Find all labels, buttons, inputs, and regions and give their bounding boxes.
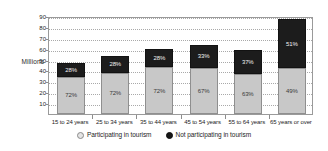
bar-segment-participating[interactable]: 67%: [190, 68, 218, 114]
bar-segment-label: 72%: [154, 88, 166, 94]
plot-area: 72%28%72%28%72%28%67%33%63%37%49%51%: [48, 17, 313, 115]
bar-segment-label: 51%: [286, 41, 298, 47]
bar-group[interactable]: 72%28%: [57, 18, 85, 114]
bar-segment-participating[interactable]: 72%: [101, 73, 129, 114]
x-axis-category-label: 65 years or over: [265, 119, 317, 126]
bar-segment-participating[interactable]: 72%: [57, 77, 85, 114]
bar-segment-label: 33%: [198, 53, 210, 59]
gridline: [49, 72, 312, 73]
gridline: [49, 40, 312, 41]
bar-segment-not-participating[interactable]: 33%: [190, 45, 218, 68]
bar-segment-participating[interactable]: 63%: [234, 74, 262, 114]
legend-item[interactable]: Not participating in tourism: [166, 131, 252, 139]
bar-segment-label: 72%: [109, 90, 121, 96]
y-axis-tick-label: 20: [30, 90, 46, 96]
bar-segment-label: 72%: [65, 92, 77, 98]
y-axis-tick-label: 30: [30, 79, 46, 85]
gridline: [49, 18, 312, 19]
bar-segment-not-participating[interactable]: 28%: [101, 56, 129, 72]
legend-label: Not participating in tourism: [176, 131, 252, 139]
y-axis-tick-label: 90: [30, 14, 46, 20]
bar-segment-not-participating[interactable]: 37%: [234, 50, 262, 74]
bar-segment-not-participating[interactable]: 28%: [145, 49, 173, 68]
bar-group[interactable]: 49%51%: [278, 18, 306, 114]
bar-segment-participating[interactable]: 72%: [145, 67, 173, 114]
gridline: [49, 29, 312, 30]
bar-segment-label: 37%: [242, 59, 254, 65]
bar-segment-participating[interactable]: 49%: [278, 68, 306, 114]
bar-segment-not-participating[interactable]: 51%: [278, 19, 306, 67]
bar-group[interactable]: 72%28%: [145, 18, 173, 114]
legend-item[interactable]: Participating in tourism: [77, 131, 152, 139]
x-axis: 15 to 24 years25 to 34 years35 to 44 yea…: [48, 115, 313, 129]
bar-segment-not-participating[interactable]: 28%: [57, 63, 85, 77]
circle-open-light-icon: [77, 132, 84, 139]
bar-segment-label: 49%: [286, 88, 298, 94]
legend-label: Participating in tourism: [87, 131, 152, 139]
y-axis-tick-label: 40: [30, 68, 46, 74]
gridline: [49, 105, 312, 106]
gridline: [49, 94, 312, 95]
chart-legend: Participating in tourismNot participatin…: [0, 131, 328, 139]
stacked-bar-chart: Millions 908070605040302010 72%28%72%28%…: [0, 0, 328, 151]
gridline: [49, 83, 312, 84]
bar-segment-label: 63%: [242, 91, 254, 97]
circle-filled-dark-icon: [166, 132, 173, 139]
y-axis-ticks: 908070605040302010: [28, 17, 46, 115]
y-axis-tick-label: 60: [30, 47, 46, 53]
bar-segment-label: 67%: [198, 88, 210, 94]
bar-group[interactable]: 72%28%: [101, 18, 129, 114]
bar-segment-label: 28%: [154, 55, 166, 61]
y-axis-tick-label: 80: [30, 25, 46, 31]
y-axis-tick-label: 70: [30, 36, 46, 42]
plot-inner: 72%28%72%28%72%28%67%33%63%37%49%51%: [49, 18, 312, 114]
y-axis-tick-label: 10: [30, 101, 46, 107]
gridline: [49, 51, 312, 52]
gridline: [49, 62, 312, 63]
bar-group[interactable]: 63%37%: [234, 18, 262, 114]
bar-group[interactable]: 67%33%: [190, 18, 218, 114]
bar-segment-label: 28%: [109, 61, 121, 67]
bar-segment-label: 28%: [65, 67, 77, 73]
y-axis-tick-label: 50: [30, 58, 46, 64]
